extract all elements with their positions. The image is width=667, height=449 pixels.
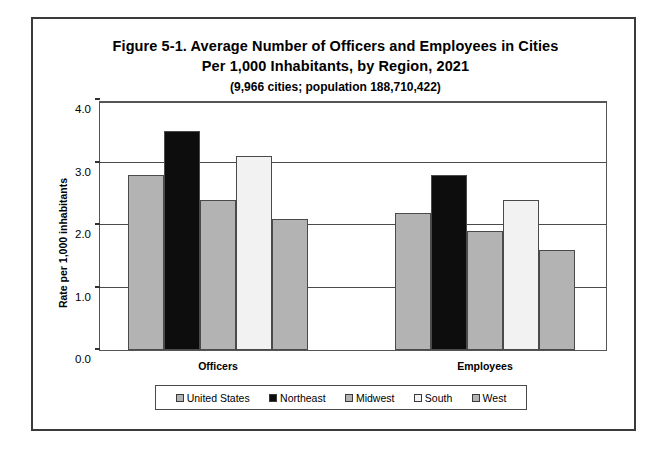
bar-employees-south: [503, 200, 539, 350]
plot-area: 0.01.02.03.04.0OfficersEmployees: [99, 101, 607, 351]
x-axis-category-label: Employees: [457, 360, 512, 372]
legend-item-south[interactable]: South: [414, 392, 452, 404]
legend-label: South: [425, 392, 452, 404]
legend-swatch-icon: [269, 394, 277, 402]
bar-officers-northeast: [164, 131, 200, 350]
legend-item-united-states[interactable]: United States: [176, 392, 250, 404]
bar-group-officers: Officers: [128, 103, 308, 350]
bar-employees-west: [539, 250, 575, 350]
legend-label: West: [483, 392, 507, 404]
y-axis-tick: [95, 161, 100, 163]
legend-label: United States: [187, 392, 250, 404]
x-axis-category-label: Officers: [198, 360, 238, 372]
bar-employees-united-states: [395, 213, 431, 351]
y-axis-tick: [95, 286, 100, 288]
legend-label: Northeast: [280, 392, 326, 404]
legend-swatch-icon: [176, 394, 184, 402]
y-axis-title: Rate per 1,000 inhabitants: [57, 118, 73, 368]
bar-officers-united-states: [128, 175, 164, 350]
legend-swatch-icon: [472, 394, 480, 402]
legend-swatch-icon: [414, 394, 422, 402]
legend-label: Midwest: [356, 392, 395, 404]
chart-subtitle: (9,966 cities; population 188,710,422): [33, 78, 638, 96]
chart-title-line-2: Per 1,000 Inhabitants, by Region, 2021: [33, 56, 638, 76]
figure-frame: Figure 5-1. Average Number of Officers a…: [31, 17, 636, 431]
bar-employees-midwest: [467, 231, 503, 350]
chart-legend: United StatesNortheastMidwestSouthWest: [155, 385, 527, 410]
y-axis-tick: [95, 348, 100, 350]
legend-item-west[interactable]: West: [472, 392, 507, 404]
title-block: Figure 5-1. Average Number of Officers a…: [33, 36, 638, 96]
bar-officers-west: [272, 219, 308, 350]
bar-group-employees: Employees: [395, 103, 575, 350]
bar-officers-midwest: [200, 200, 236, 350]
legend-swatch-icon: [345, 394, 353, 402]
legend-item-midwest[interactable]: Midwest: [345, 392, 395, 404]
y-axis-tick: [95, 223, 100, 225]
bar-officers-south: [236, 156, 272, 350]
bar-employees-northeast: [431, 175, 467, 350]
chart-title-line-1: Figure 5-1. Average Number of Officers a…: [33, 36, 638, 56]
y-axis-tick: [95, 98, 100, 100]
legend-item-northeast[interactable]: Northeast: [269, 392, 326, 404]
